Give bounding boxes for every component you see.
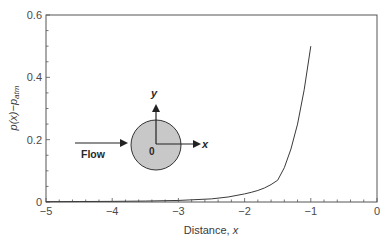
- x-tick-label: −1: [305, 205, 318, 217]
- y-axis-symbol: y: [150, 87, 158, 99]
- y-axis-label: p(x)−patm: [7, 85, 21, 131]
- x-axis-label: Distance, x: [184, 224, 239, 236]
- flow-label: Flow: [81, 148, 106, 160]
- y-tick-label: 0.2: [27, 134, 42, 146]
- x-tick-label: −4: [106, 205, 119, 217]
- y-tick-label: 0: [36, 196, 42, 208]
- x-tick-label: 0: [374, 205, 380, 217]
- x-tick-label: −2: [238, 205, 251, 217]
- x-axis-symbol: x: [201, 138, 209, 150]
- y-tick-label: 0.6: [27, 9, 42, 21]
- origin-label: 0: [149, 146, 155, 157]
- plot-frame: [46, 15, 377, 202]
- y-tick-label: 0.4: [27, 71, 42, 83]
- y-axis-ticks: 00.20.40.6: [27, 9, 50, 208]
- pressure-chart: −5−4−3−2−10 00.20.40.6 p(x)−patm Distanc…: [0, 0, 390, 241]
- pressure-curve: [46, 46, 311, 202]
- x-tick-label: −3: [172, 205, 185, 217]
- cylinder-diagram: Flow y x 0: [75, 87, 209, 170]
- x-axis-ticks: −5−4−3−2−10: [40, 198, 380, 217]
